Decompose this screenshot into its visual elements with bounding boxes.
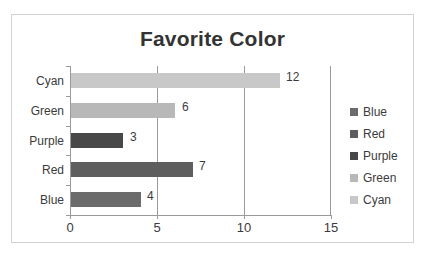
x-axis-tick [157, 215, 158, 219]
x-axis-tick-label: 15 [324, 220, 338, 235]
legend-swatch-icon [350, 174, 358, 182]
chart-title: Favorite Color [12, 27, 413, 51]
y-axis-tick-label: Blue [18, 193, 64, 207]
x-axis-line [70, 215, 332, 216]
legend-item-red[interactable]: Red [350, 123, 412, 145]
bar-green[interactable] [71, 103, 175, 118]
chart-container: Favorite Color Cyan Green Purple Red Blu… [11, 14, 414, 243]
bar-row: 6 [70, 96, 331, 126]
bar-value-label: 3 [130, 130, 137, 144]
y-axis-labels: Cyan Green Purple Red Blue [12, 66, 64, 215]
bar-row: 12 [70, 66, 331, 96]
legend-swatch-icon [350, 108, 358, 116]
bar-cyan[interactable] [71, 73, 280, 88]
legend-item-blue[interactable]: Blue [350, 101, 412, 123]
bar-row: 7 [70, 155, 331, 185]
bar-blue[interactable] [71, 192, 141, 207]
legend-item-cyan[interactable]: Cyan [350, 189, 412, 211]
bar-row: 4 [70, 185, 331, 215]
legend-label: Blue [363, 105, 387, 119]
x-axis-tick [244, 215, 245, 219]
legend-swatch-icon [350, 130, 358, 138]
bar-row: 3 [70, 126, 331, 156]
x-axis-tick [331, 215, 332, 219]
legend-item-purple[interactable]: Purple [350, 145, 412, 167]
bar-value-label: 7 [199, 159, 206, 173]
bar-value-label: 6 [182, 100, 189, 114]
y-axis-tick-label: Green [18, 104, 64, 118]
plot-area: 12 6 3 7 4 [70, 66, 331, 215]
bar-red[interactable] [71, 162, 193, 177]
legend-label: Cyan [363, 193, 391, 207]
x-axis-tick-label: 5 [153, 220, 160, 235]
chart-legend: Blue Red Purple Green Cyan [350, 101, 412, 211]
bar-purple[interactable] [71, 133, 123, 148]
legend-label: Purple [363, 149, 398, 163]
y-axis-tick-label: Cyan [18, 74, 64, 88]
bar-value-label: 12 [286, 70, 299, 84]
legend-label: Red [363, 127, 385, 141]
legend-label: Green [363, 171, 396, 185]
y-axis-tick-label: Purple [18, 134, 64, 148]
bar-value-label: 4 [147, 189, 154, 203]
legend-swatch-icon [350, 196, 358, 204]
x-axis-tick-label: 10 [237, 220, 251, 235]
x-axis-tick [70, 215, 71, 219]
legend-swatch-icon [350, 152, 358, 160]
legend-item-green[interactable]: Green [350, 167, 412, 189]
x-axis-tick-label: 0 [66, 220, 73, 235]
y-axis-tick-label: Red [18, 163, 64, 177]
